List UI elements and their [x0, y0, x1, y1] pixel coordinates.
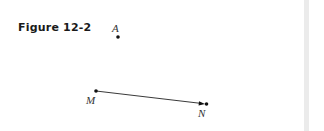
geometry-diagram: A M N	[0, 0, 324, 131]
point-m	[94, 89, 98, 93]
segment-mn	[96, 91, 202, 104]
point-n	[205, 102, 209, 106]
point-n-label: N	[197, 107, 206, 119]
point-m-label: M	[85, 94, 96, 106]
scrollbar[interactable]	[304, 0, 309, 131]
point-a	[116, 35, 120, 39]
arrowhead-icon	[199, 101, 205, 105]
point-a-label: A	[111, 22, 119, 34]
